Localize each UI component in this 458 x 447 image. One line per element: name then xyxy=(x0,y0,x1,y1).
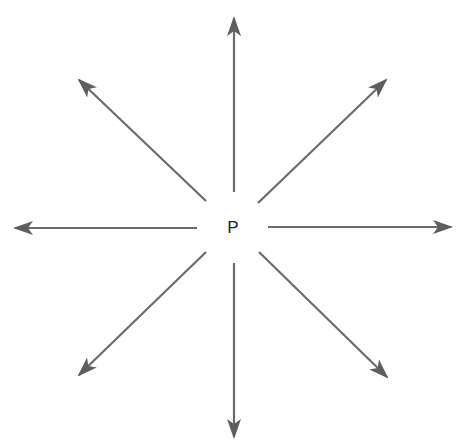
arrow-up-left-icon xyxy=(79,80,206,201)
arrow-down-left-icon xyxy=(79,252,206,375)
arrow-up-right-icon xyxy=(258,80,386,203)
point-p-label: P xyxy=(227,218,238,238)
arrow-down-right-icon xyxy=(259,252,387,377)
